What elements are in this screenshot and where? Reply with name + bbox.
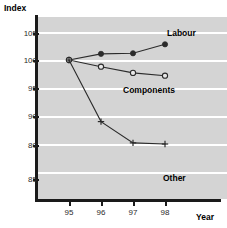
- series-line: [69, 44, 165, 60]
- x-axis-title: Year: [196, 212, 214, 222]
- data-point-marker: [130, 70, 135, 75]
- data-point-marker: [98, 64, 103, 69]
- series-line: [69, 60, 165, 76]
- data-point-marker: [162, 42, 167, 47]
- series-line: [69, 60, 165, 144]
- series-components: [66, 57, 167, 78]
- series-labour: [66, 42, 167, 63]
- line-chart: Index 105 100 95 90 80 85 95 96 97 98 La…: [0, 0, 227, 228]
- data-point-marker: [130, 51, 135, 56]
- series-label-other: Other: [163, 173, 186, 183]
- series-label-components: Components: [123, 85, 175, 95]
- series-label-labour: Labour: [167, 28, 196, 38]
- data-point-marker: [98, 51, 103, 56]
- data-point-marker: [162, 73, 167, 78]
